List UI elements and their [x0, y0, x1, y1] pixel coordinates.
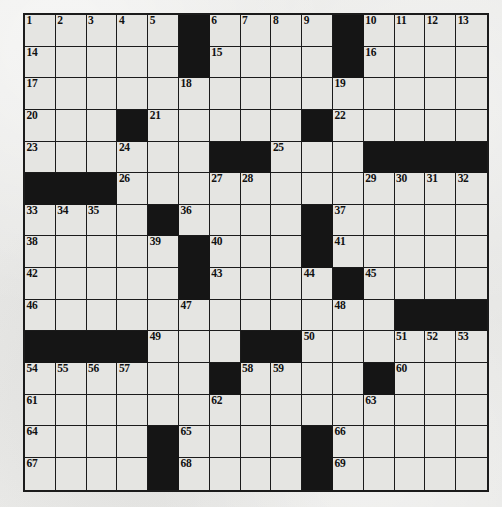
letter-cell[interactable]: 64	[25, 426, 56, 458]
letter-cell[interactable]	[241, 236, 272, 268]
letter-cell[interactable]: 7	[241, 15, 272, 47]
letter-cell[interactable]: 16	[364, 47, 395, 79]
letter-cell[interactable]	[364, 236, 395, 268]
letter-cell[interactable]	[241, 205, 272, 237]
letter-cell[interactable]	[117, 205, 148, 237]
letter-cell[interactable]	[179, 110, 210, 142]
letter-cell[interactable]	[302, 395, 333, 427]
letter-cell[interactable]	[87, 268, 118, 300]
letter-cell[interactable]	[87, 110, 118, 142]
letter-cell[interactable]	[395, 268, 426, 300]
letter-cell[interactable]	[210, 300, 241, 332]
letter-cell[interactable]	[395, 205, 426, 237]
letter-cell[interactable]	[425, 236, 456, 268]
letter-cell[interactable]	[56, 142, 87, 174]
letter-cell[interactable]	[271, 205, 302, 237]
letter-cell[interactable]: 18	[179, 78, 210, 110]
letter-cell[interactable]	[179, 142, 210, 174]
letter-cell[interactable]	[302, 78, 333, 110]
letter-cell[interactable]	[425, 78, 456, 110]
letter-cell[interactable]: 49	[148, 331, 179, 363]
letter-cell[interactable]	[456, 47, 487, 79]
letter-cell[interactable]	[333, 395, 364, 427]
letter-cell[interactable]: 14	[25, 47, 56, 79]
letter-cell[interactable]	[302, 47, 333, 79]
letter-cell[interactable]	[364, 300, 395, 332]
letter-cell[interactable]: 46	[25, 300, 56, 332]
letter-cell[interactable]	[271, 173, 302, 205]
letter-cell[interactable]: 42	[25, 268, 56, 300]
letter-cell[interactable]	[117, 458, 148, 490]
letter-cell[interactable]: 8	[271, 15, 302, 47]
letter-cell[interactable]: 51	[395, 331, 426, 363]
letter-cell[interactable]	[117, 236, 148, 268]
letter-cell[interactable]: 38	[25, 236, 56, 268]
letter-cell[interactable]	[117, 47, 148, 79]
letter-cell[interactable]: 61	[25, 395, 56, 427]
letter-cell[interactable]: 43	[210, 268, 241, 300]
letter-cell[interactable]	[456, 205, 487, 237]
letter-cell[interactable]	[364, 426, 395, 458]
letter-cell[interactable]	[271, 268, 302, 300]
letter-cell[interactable]: 37	[333, 205, 364, 237]
letter-cell[interactable]	[271, 395, 302, 427]
letter-cell[interactable]	[56, 395, 87, 427]
letter-cell[interactable]	[425, 426, 456, 458]
letter-cell[interactable]	[87, 142, 118, 174]
letter-cell[interactable]: 32	[456, 173, 487, 205]
letter-cell[interactable]	[56, 268, 87, 300]
letter-cell[interactable]: 39	[148, 236, 179, 268]
letter-cell[interactable]: 2	[56, 15, 87, 47]
letter-cell[interactable]	[87, 78, 118, 110]
letter-cell[interactable]	[87, 426, 118, 458]
letter-cell[interactable]	[271, 458, 302, 490]
letter-cell[interactable]	[395, 395, 426, 427]
letter-cell[interactable]	[117, 78, 148, 110]
letter-cell[interactable]	[302, 173, 333, 205]
letter-cell[interactable]: 34	[56, 205, 87, 237]
letter-cell[interactable]	[241, 426, 272, 458]
letter-cell[interactable]: 27	[210, 173, 241, 205]
letter-cell[interactable]: 68	[179, 458, 210, 490]
letter-cell[interactable]	[395, 78, 426, 110]
letter-cell[interactable]: 56	[87, 363, 118, 395]
letter-cell[interactable]: 48	[333, 300, 364, 332]
letter-cell[interactable]	[179, 395, 210, 427]
letter-cell[interactable]: 22	[333, 110, 364, 142]
letter-cell[interactable]	[117, 300, 148, 332]
letter-cell[interactable]: 40	[210, 236, 241, 268]
letter-cell[interactable]	[241, 78, 272, 110]
letter-cell[interactable]	[456, 110, 487, 142]
letter-cell[interactable]	[148, 268, 179, 300]
letter-cell[interactable]	[456, 236, 487, 268]
letter-cell[interactable]: 41	[333, 236, 364, 268]
letter-cell[interactable]: 50	[302, 331, 333, 363]
letter-cell[interactable]	[395, 236, 426, 268]
letter-cell[interactable]: 10	[364, 15, 395, 47]
letter-cell[interactable]: 67	[25, 458, 56, 490]
letter-cell[interactable]: 60	[395, 363, 426, 395]
letter-cell[interactable]: 63	[364, 395, 395, 427]
letter-cell[interactable]: 31	[425, 173, 456, 205]
letter-cell[interactable]	[210, 331, 241, 363]
letter-cell[interactable]	[271, 236, 302, 268]
letter-cell[interactable]	[364, 331, 395, 363]
letter-cell[interactable]: 5	[148, 15, 179, 47]
letter-cell[interactable]	[302, 363, 333, 395]
letter-cell[interactable]	[148, 78, 179, 110]
letter-cell[interactable]	[302, 300, 333, 332]
letter-cell[interactable]	[333, 142, 364, 174]
letter-cell[interactable]: 52	[425, 331, 456, 363]
letter-cell[interactable]	[56, 78, 87, 110]
letter-cell[interactable]: 19	[333, 78, 364, 110]
crossword-grid[interactable]: 1234567891011121314151617181920212223242…	[23, 13, 489, 492]
letter-cell[interactable]	[456, 268, 487, 300]
letter-cell[interactable]: 59	[271, 363, 302, 395]
letter-cell[interactable]	[456, 363, 487, 395]
letter-cell[interactable]: 26	[117, 173, 148, 205]
letter-cell[interactable]	[425, 268, 456, 300]
letter-cell[interactable]	[148, 142, 179, 174]
letter-cell[interactable]: 36	[179, 205, 210, 237]
letter-cell[interactable]	[271, 426, 302, 458]
letter-cell[interactable]	[117, 426, 148, 458]
